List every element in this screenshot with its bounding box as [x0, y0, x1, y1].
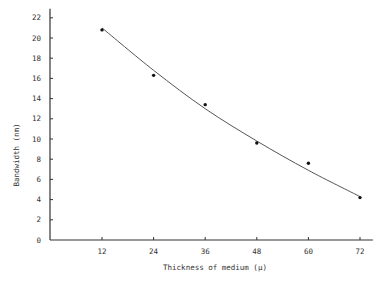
data-point [255, 141, 258, 144]
data-point [358, 196, 361, 199]
data-points [100, 28, 361, 199]
chart: 0246810121416182022 122436486072 Thickne… [0, 0, 382, 281]
y-tick-label: 0 [36, 236, 41, 245]
x-tick-label: 12 [97, 247, 106, 256]
data-point [204, 103, 207, 106]
y-tick-label: 12 [32, 114, 41, 123]
y-tick-label: 14 [32, 94, 42, 103]
x-tick-label: 24 [149, 247, 159, 256]
y-tick-label: 20 [32, 34, 42, 43]
x-tick-label: 48 [252, 247, 262, 256]
data-point [152, 74, 155, 77]
y-tick-label: 10 [32, 135, 42, 144]
x-tick-label: 36 [201, 247, 211, 256]
y-tick-label: 18 [32, 54, 42, 63]
y-tick-label: 16 [32, 74, 42, 83]
x-tick-label: 60 [304, 247, 314, 256]
y-tick-label: 4 [36, 195, 41, 204]
x-axis-title: Thickness of medium (μ) [163, 263, 267, 272]
fit-curve [102, 28, 360, 197]
y-tick-label: 8 [36, 155, 41, 164]
y-axis-title: Bandwidth (nm) [12, 123, 21, 186]
axes [50, 9, 373, 240]
x-tick-label: 72 [355, 247, 364, 256]
data-point [100, 28, 103, 31]
y-tick-label: 2 [36, 215, 41, 224]
y-tick-label: 6 [36, 175, 41, 184]
data-point [307, 162, 310, 165]
y-tick-label: 22 [32, 13, 41, 22]
